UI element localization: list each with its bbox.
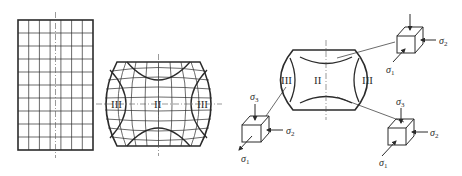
- zone-label-right: III: [197, 98, 208, 110]
- sigma3-label: σ3: [250, 91, 259, 104]
- body-label-center: II: [314, 74, 322, 86]
- sigma1-label: σ1: [386, 64, 395, 77]
- arrow-sigma1: [393, 49, 405, 62]
- sigma1-label: σ1: [379, 157, 388, 170]
- deformed-body: III II III: [266, 40, 404, 122]
- stress-cube-bottom-right: σ3 σ2 σ1: [379, 96, 439, 170]
- arrow-sigma1: [382, 141, 396, 156]
- sigma2-label: σ2: [286, 125, 295, 138]
- body-label-right: III: [362, 74, 373, 86]
- zone-label-left: III: [111, 98, 122, 110]
- zone-label-center: II: [154, 98, 162, 110]
- sigma1-label: σ1: [241, 153, 250, 166]
- upsetting-deformation-diagram: III II III III II III σ2: [0, 0, 462, 176]
- deformed-grid: III II III: [96, 54, 222, 156]
- sigma2-label: σ2: [430, 127, 439, 140]
- undeformed-grid: [18, 12, 93, 158]
- body-zone-boundaries: [290, 57, 359, 103]
- sigma2-label: σ2: [439, 35, 448, 48]
- sigma3-label: σ3: [396, 96, 405, 109]
- body-label-left: III: [281, 74, 292, 86]
- arrow-sigma1: [239, 136, 252, 150]
- stress-cube-top-right: σ2 σ1: [386, 14, 448, 77]
